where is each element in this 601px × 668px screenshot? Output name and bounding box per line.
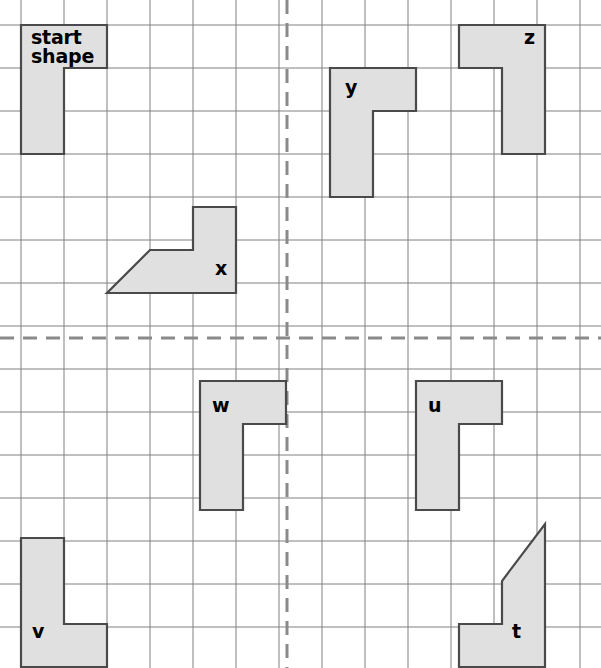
shape-u — [416, 381, 502, 510]
shape-w — [200, 381, 286, 510]
shape-x — [107, 207, 236, 293]
shape-t — [459, 524, 545, 667]
grid-and-shapes — [0, 0, 601, 668]
worksheet-canvas: start shapeyzxwuvt — [0, 0, 601, 668]
shape-z — [459, 25, 545, 154]
start-shape — [21, 25, 107, 154]
shape-v — [21, 538, 107, 667]
shape-polygons — [21, 25, 545, 667]
shape-y — [330, 68, 416, 197]
